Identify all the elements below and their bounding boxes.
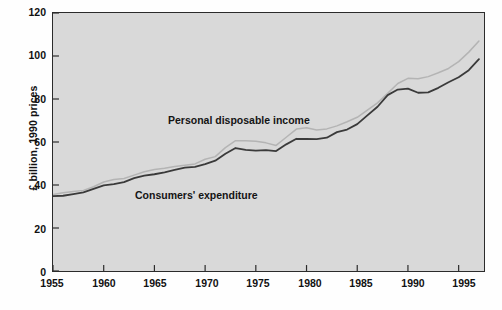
x-tick-1955: 1955 <box>29 278 75 289</box>
plot-area: Personal disposable income Consumers' ex… <box>52 12 485 272</box>
x-tick-1985: 1985 <box>338 278 384 289</box>
annotation-personal-disposable-income: Personal disposable income <box>168 115 310 126</box>
x-tick-1980: 1980 <box>287 278 333 289</box>
x-tick-1965: 1965 <box>132 278 178 289</box>
x-tick-1960: 1960 <box>81 278 127 289</box>
x-tick-1970: 1970 <box>184 278 230 289</box>
chart-figure: £ billion, 1990 prices 120 100 80 60 40 … <box>0 0 502 310</box>
plot-svg <box>53 13 484 271</box>
x-tick-1995: 1995 <box>441 278 487 289</box>
axis-tick-marks <box>53 13 459 271</box>
series-line-consumers-expenditure <box>53 59 479 196</box>
x-tick-1990: 1990 <box>390 278 436 289</box>
x-tick-1975: 1975 <box>235 278 281 289</box>
annotation-consumers-expenditure: Consumers' expenditure <box>135 190 258 201</box>
